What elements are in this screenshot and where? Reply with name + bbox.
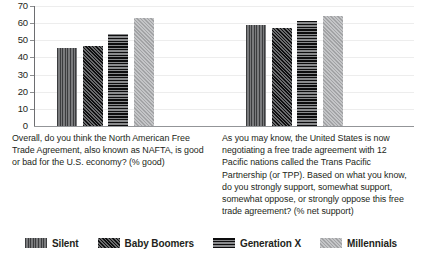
legend-swatch-baby-boomers-icon	[98, 238, 120, 248]
chart-plot-area: 70 60 50 40 30 20 10 0	[0, 4, 422, 130]
legend-label: Silent	[52, 238, 79, 249]
y-tick-60: 60	[18, 18, 28, 28]
caption-question-2: As you may know, the United States is no…	[222, 132, 414, 217]
chart-legend: SilentBaby BoomersGeneration XMillennial…	[0, 232, 422, 254]
y-tick-50: 50	[18, 36, 28, 46]
legend-item-silent[interactable]: Silent	[25, 238, 79, 249]
legend-label: Millennials	[347, 238, 397, 249]
grouped-bar-chart-figure: 70 60 50 40 30 20 10 0 Overal	[0, 0, 422, 263]
bar-millennials-group-2	[323, 16, 343, 126]
y-tick-40: 40	[18, 53, 28, 63]
bar-generation-x-group-1	[108, 34, 128, 126]
legend-swatch-generation-x-icon	[213, 238, 235, 248]
bar-baby-boomers-group-1	[83, 46, 103, 126]
legend-swatch-silent-icon	[25, 238, 47, 248]
y-tick-20: 20	[18, 87, 28, 97]
x-axis-baseline	[34, 126, 414, 127]
legend-item-baby-boomers[interactable]: Baby Boomers	[98, 238, 194, 249]
bar-millennials-group-1	[134, 18, 154, 126]
bar-silent-group-2	[246, 25, 266, 126]
bar-baby-boomers-group-2	[272, 28, 292, 126]
y-tick-0: 0	[23, 121, 28, 131]
bar-silent-group-1	[57, 48, 77, 126]
y-tick-70: 70	[18, 1, 28, 11]
legend-label: Baby Boomers	[125, 238, 194, 249]
question-captions: Overall, do you think the North American…	[0, 132, 422, 228]
bar-generation-x-group-2	[297, 21, 317, 126]
y-axis-tick-labels: 70 60 50 40 30 20 10 0	[0, 4, 34, 130]
caption-question-1: Overall, do you think the North American…	[12, 132, 208, 169]
legend-label: Generation X	[240, 238, 301, 249]
bar-series-container	[35, 4, 422, 126]
legend-item-generation-x[interactable]: Generation X	[213, 238, 301, 249]
legend-swatch-millennials-icon	[320, 238, 342, 248]
y-tick-10: 10	[18, 104, 28, 114]
legend-item-millennials[interactable]: Millennials	[320, 238, 397, 249]
y-tick-30: 30	[18, 70, 28, 80]
